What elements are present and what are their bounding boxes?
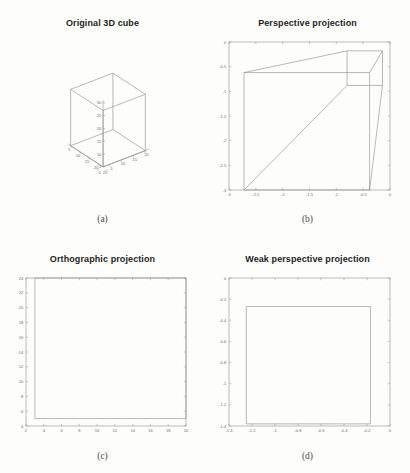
panel-original-3d-cube: Original 3D cube 51015202530051015205101… — [0, 0, 205, 236]
y-tick-label: 4 — [21, 424, 24, 429]
axes-box — [229, 278, 390, 426]
x-tick-label: 5 — [110, 166, 113, 171]
y-tick-label: 25 — [103, 170, 108, 175]
y-tick-label: 5 — [68, 147, 71, 152]
plot-original-3d-cube: 5101520253005101520510152025 — [0, 0, 205, 236]
y-tick-label: 0 — [224, 40, 227, 45]
x-tick-label: 6 — [60, 428, 63, 433]
x-tick-label: 0 — [389, 428, 392, 433]
y-tick-label: -0.8 — [219, 360, 227, 365]
x-tick-label: 8 — [78, 428, 81, 433]
z-tick-label: 15 — [97, 139, 102, 144]
y-tick-label: 10 — [76, 153, 81, 158]
z-tick-label: 25 — [97, 113, 102, 118]
projected-square — [246, 307, 370, 424]
x-tick-label: 15 — [133, 157, 138, 162]
panel-orthographic-projection: Orthographic projection 2468101214161820… — [0, 236, 205, 473]
cube-edge — [113, 130, 145, 151]
x-tick-label: -0.8 — [294, 428, 302, 433]
cube-edge — [71, 130, 113, 146]
projected-near-face — [244, 73, 370, 190]
cube-edge — [71, 73, 113, 89]
x-tick-label: -0.4 — [340, 428, 348, 433]
z-tick-label: 30 — [97, 100, 102, 105]
x-tick-label: 20 — [184, 428, 189, 433]
projected-connector-edge — [244, 85, 347, 190]
y-tick-label: -0.5 — [219, 64, 227, 69]
y-tick-label: 15 — [85, 159, 90, 164]
x-tick-label: 18 — [166, 428, 171, 433]
x-tick-label: 0 — [98, 170, 101, 175]
panel-perspective-projection: Perspective projection -3-2.5-2-1.5-1-0.… — [205, 0, 410, 236]
y-tick-label: 12 — [19, 364, 24, 369]
y-tick-label: -2.5 — [219, 163, 227, 168]
y-tick-label: 18 — [19, 320, 24, 325]
panel-caption-d: (d) — [205, 451, 410, 461]
y-tick-label: -2 — [223, 138, 227, 143]
y-tick-label: -1.2 — [219, 402, 227, 407]
x-tick-label: -2 — [281, 192, 285, 197]
x-tick-label: -1.4 — [225, 428, 233, 433]
x-tick-label: -0.5 — [360, 192, 368, 197]
projected-connector-edge — [244, 51, 347, 73]
x-tick-label: 4 — [43, 428, 46, 433]
plot-weak-perspective-projection: -1.4-1.2-1-0.8-0.6-0.4-0.20-1.4-1.2-1-0.… — [205, 236, 410, 473]
plot-orthographic-projection: 24681012141618204681012141618202224 — [0, 236, 205, 473]
cube-edge — [113, 73, 145, 94]
panel-weak-perspective-projection: Weak perspective projection -1.4-1.2-1-0… — [205, 236, 410, 473]
z-tick-label: 20 — [97, 126, 102, 131]
x-tick-label: 12 — [113, 428, 118, 433]
y-tick-label: 0 — [224, 276, 227, 281]
y-tick-label: 20 — [19, 305, 24, 310]
x-tick-label: -1.2 — [248, 428, 256, 433]
y-tick-label: -1 — [223, 381, 227, 386]
plot-perspective-projection: -3-2.5-2-1.5-1-0.50-3-2.5-2-1.5-1-0.50 — [205, 0, 410, 236]
y-tick-label: -1 — [223, 89, 227, 94]
x-tick-label: -1 — [273, 428, 277, 433]
y-tick-label: -0.6 — [219, 339, 227, 344]
projected-far-face — [347, 51, 382, 86]
x-tick-label: 10 — [121, 161, 126, 166]
x-tick-label: 2 — [25, 428, 28, 433]
panel-caption-c: (c) — [0, 451, 205, 461]
x-tick-label: -1.5 — [306, 192, 314, 197]
y-tick-label: -0.2 — [219, 297, 227, 302]
y-tick-label: 14 — [19, 350, 24, 355]
projected-square — [35, 278, 186, 419]
projected-connector-edge — [370, 85, 383, 190]
z-tick-label: 10 — [97, 152, 102, 157]
axes-box — [229, 42, 390, 190]
y-tick-label: 8 — [21, 394, 24, 399]
y-tick-label: 10 — [19, 379, 24, 384]
y-tick-label: -1.5 — [219, 114, 227, 119]
y-tick-label: 6 — [21, 409, 24, 414]
y-tick-label: 16 — [19, 335, 24, 340]
x-tick-label: 14 — [130, 428, 135, 433]
y-tick-label: -1.4 — [219, 424, 227, 429]
cube-edge — [103, 94, 145, 110]
x-tick-label: -3 — [227, 192, 231, 197]
x-tick-label: 20 — [144, 152, 149, 157]
y-tick-label: 20 — [94, 165, 99, 170]
x-tick-label: 10 — [95, 428, 100, 433]
axes-box — [26, 278, 186, 426]
y-tick-label: 22 — [19, 290, 24, 295]
panel-caption-a: (a) — [0, 214, 205, 224]
x-tick-label: 0 — [389, 192, 392, 197]
projected-connector-edge — [370, 51, 383, 73]
x-tick-label: -0.2 — [363, 428, 371, 433]
panel-caption-b: (b) — [205, 214, 410, 224]
x-tick-label: -0.6 — [317, 428, 325, 433]
y-tick-label: 24 — [19, 276, 24, 281]
x-tick-label: -1 — [335, 192, 339, 197]
x-tick-label: 16 — [148, 428, 153, 433]
figure-subplot-grid: Original 3D cube 51015202530051015205101… — [0, 0, 410, 473]
x-tick-label: -2.5 — [252, 192, 260, 197]
y-tick-label: -0.4 — [219, 318, 227, 323]
